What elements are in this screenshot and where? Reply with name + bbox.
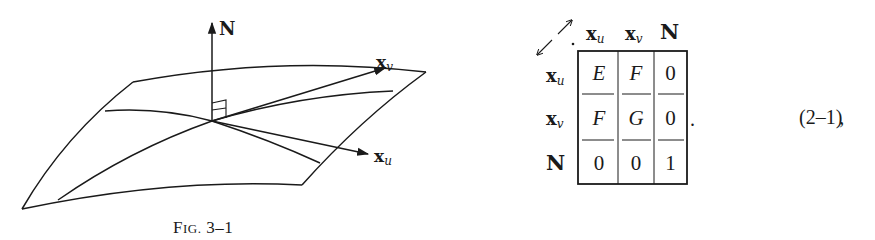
- row-header-sub: v: [557, 117, 564, 131]
- table-cell: F: [618, 63, 654, 84]
- row-header-base: x: [546, 65, 557, 86]
- table-cell: 1: [654, 153, 687, 174]
- caption-number: 3–1: [206, 218, 233, 237]
- row-header-xu: xu: [546, 67, 564, 87]
- table-cell: G: [618, 108, 654, 129]
- figure-caption: FIG. 3–1: [173, 219, 233, 236]
- table-cell: 0: [654, 108, 687, 129]
- corner-dot: [572, 43, 575, 46]
- col-header-n: N: [660, 21, 679, 42]
- surface-figure: [0, 0, 875, 240]
- xv-label: xv: [376, 54, 393, 73]
- xv-tangent-arrow: [212, 68, 385, 121]
- row-header-n: N: [546, 152, 565, 173]
- right-angle-marker: [212, 108, 226, 110]
- surface-left-edge: [22, 82, 133, 209]
- col-header-xu: xu: [586, 25, 604, 45]
- normal-label: N: [219, 20, 235, 38]
- surface-right-edge: [302, 72, 426, 185]
- col-header-base: x: [586, 23, 597, 44]
- col-header-sub: u: [597, 32, 605, 46]
- xu-label: xu: [374, 148, 392, 167]
- row-header-sub: u: [557, 74, 565, 88]
- xu-label-base: x: [374, 146, 384, 166]
- corner-arrow-up-right: [558, 20, 572, 34]
- xu-label-sub: u: [384, 154, 392, 168]
- row-header-base: x: [546, 108, 557, 129]
- corner-arrow-down-left: [537, 40, 552, 55]
- col-header-sub: v: [636, 32, 643, 46]
- xv-label-base: x: [376, 52, 386, 72]
- xv-label-sub: v: [386, 60, 393, 74]
- table-cell: E: [580, 63, 618, 84]
- caption-smallcaps: IG.: [183, 221, 201, 236]
- equation-trailing-comma: ,: [839, 106, 844, 128]
- table-cell: 0: [654, 63, 687, 84]
- table-cell: 0: [618, 153, 654, 174]
- caption-prefix: F: [173, 218, 183, 237]
- col-header-base: x: [625, 23, 636, 44]
- equation-number: (2–1),: [799, 107, 844, 127]
- equation-number-text: (2–1): [799, 106, 842, 128]
- table-cell: 0: [580, 153, 618, 174]
- table-trailing-period: .: [690, 109, 695, 129]
- col-header-xv: xv: [625, 25, 643, 45]
- table-cell: F: [580, 108, 618, 129]
- row-header-xv: xv: [546, 110, 564, 130]
